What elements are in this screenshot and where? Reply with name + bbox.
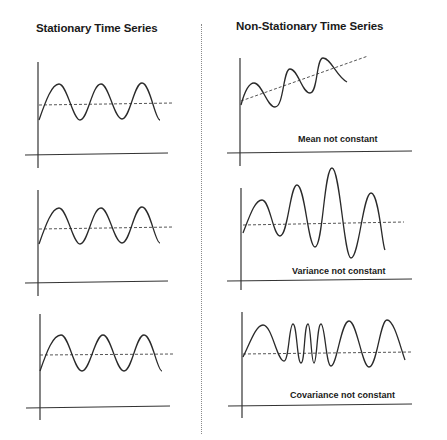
stationary-panel-2 (25, 190, 174, 296)
x-axis (227, 151, 412, 153)
x-axis (227, 279, 412, 281)
mean-not-constant-panel (227, 56, 412, 166)
x-axis (25, 281, 168, 283)
x-axis (25, 153, 168, 155)
caption-variance-not-constant: Variance not constant (292, 266, 386, 276)
stationary-wave (40, 335, 162, 371)
caption-mean-not-constant: Mean not constant (298, 134, 378, 144)
diagram-canvas (0, 0, 447, 440)
stationary-wave (39, 207, 160, 244)
stationary-panel-3 (26, 314, 174, 420)
stationary-panel-1 (25, 62, 174, 168)
caption-covariance-not-constant: Covariance not constant (290, 390, 395, 400)
covariance-not-constant-panel (228, 312, 412, 418)
stationary-wave (39, 83, 160, 120)
covariance-wave (243, 320, 405, 367)
variance-wave (243, 168, 385, 258)
trend-line (241, 56, 368, 101)
x-axis (228, 404, 412, 406)
x-axis (26, 406, 170, 408)
